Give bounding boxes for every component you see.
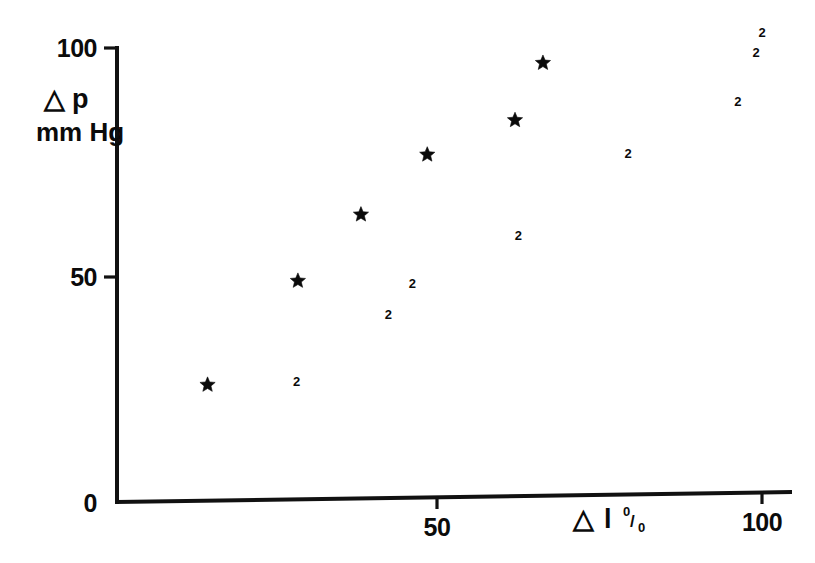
x-axis-title-l: l: [604, 504, 612, 534]
data-point-star: [420, 147, 435, 161]
y-axis-title-p: p: [72, 84, 89, 114]
axis-group: [117, 48, 790, 502]
x-axis-title-delta-icon: △: [572, 504, 595, 534]
data-point-star: [507, 112, 522, 126]
y-tick-label-50: 50: [70, 263, 97, 291]
data-point-overlap-count: 2: [385, 307, 392, 322]
data-point-star: [290, 273, 305, 287]
data-point-star: [353, 207, 368, 221]
x-axis-title-percent-slash: /: [630, 512, 635, 531]
y-axis-title-delta-icon: △: [43, 84, 66, 114]
x-tick-label-100: 100: [742, 508, 782, 536]
y-axis-title: △ p mm Hg: [36, 84, 124, 147]
data-point-layer: 22222222: [200, 25, 766, 391]
data-point-overlap-count: 2: [293, 374, 300, 389]
data-point-overlap-count: 2: [409, 276, 416, 291]
data-point-overlap-count: 2: [753, 45, 760, 60]
data-point-star: [200, 377, 215, 391]
y-tick-label-0: 0: [84, 489, 97, 517]
data-point-overlap-count: 2: [758, 25, 765, 40]
data-point-overlap-count: 2: [624, 146, 631, 161]
x-axis-title-percent-denominator: 0: [638, 520, 645, 535]
y-tick-label-100: 100: [57, 34, 97, 62]
x-axis-line: [117, 492, 790, 502]
x-tick-label-50: 50: [424, 513, 451, 541]
plot-canvas: 100 50 0 △ p mm Hg 50 100 △ l 0 / 0 2222…: [0, 0, 815, 563]
data-point-overlap-count: 2: [515, 228, 522, 243]
y-axis-title-units: mm Hg: [36, 117, 124, 147]
x-axis-title: △ l 0 / 0: [572, 504, 645, 535]
data-point-overlap-count: 2: [734, 94, 741, 109]
scatter-plot-figure: 100 50 0 △ p mm Hg 50 100 △ l 0 / 0 2222…: [0, 0, 815, 563]
data-point-star: [535, 55, 550, 69]
